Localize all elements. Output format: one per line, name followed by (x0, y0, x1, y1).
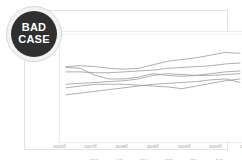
chart-plot-area (59, 31, 242, 143)
legend-item[interactable]: 경남 (179, 159, 198, 160)
x-tick-label: 2025년 (209, 144, 222, 150)
legend-item-label: 경기 (140, 159, 148, 160)
legend-item-label: 서울 (115, 159, 123, 160)
legend-item-label: 전체 (90, 159, 98, 160)
legend-item[interactable]: 충청 (204, 159, 223, 160)
bad-case-badge-line2: CASE (18, 34, 49, 46)
x-tick-label: 2027년 (240, 144, 242, 150)
x-tick-label: 2017년 (84, 144, 97, 150)
legend-item-label: 경남 (190, 159, 198, 160)
legend-item[interactable]: 전체 (79, 159, 98, 160)
legend-item[interactable]: 인천 (154, 159, 173, 160)
chart-legend: 전체 서울 경기 인천 경남 충청 (49, 157, 242, 160)
legend-item[interactable]: 서울 (104, 159, 123, 160)
x-tick-label: 2021년 (147, 144, 160, 150)
x-axis-tick-labels: 2015년 2017년 2019년 2021년 2023년 2025년 2027… (53, 144, 242, 153)
legend-item[interactable]: 경기 (129, 159, 148, 160)
chart-line-경기 (66, 67, 240, 78)
x-tick-label: 2019년 (115, 144, 128, 150)
line-chart (60, 32, 242, 142)
x-tick-label: 2015년 (53, 144, 66, 150)
chart-line-경남 (66, 79, 240, 89)
chart-line-충청 (66, 79, 240, 95)
legend-item-label: 인천 (165, 159, 173, 160)
legend-item-label: 충청 (215, 159, 223, 160)
chart-line-전체 (66, 52, 240, 69)
screenshot-root: 2015년 2017년 2019년 2021년 2023년 2025년 2027… (0, 0, 242, 160)
bad-case-badge-inner: BAD CASE (11, 11, 57, 57)
x-tick-label: 2023년 (178, 144, 191, 150)
bad-case-badge: BAD CASE (6, 6, 62, 62)
